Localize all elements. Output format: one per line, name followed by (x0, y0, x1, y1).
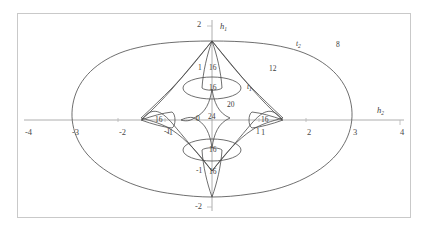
origin-label-0: 0 (196, 115, 200, 123)
region-label-12: 12 (269, 65, 277, 73)
x-axis-name: h2 (377, 106, 384, 115)
x-tick-label-3: 3 (353, 128, 357, 137)
figure-container: h1 h2 2 -2 -4 -3 -2 -1 1 2 3 4 t2 t1 8 1… (0, 0, 428, 240)
corner-label--1-left: -1 (164, 128, 170, 136)
x-tick-label--3: -3 (72, 128, 79, 137)
y-tick-label-2: 2 (197, 20, 201, 29)
region-label-24: 24 (208, 113, 216, 121)
curve-label-t1: t1 (247, 83, 252, 91)
region-label-8: 8 (336, 41, 340, 49)
corner-label--1-bottom: -1 (196, 167, 202, 175)
region-label-16-bottom-spike: 16 (209, 168, 217, 176)
y-tick-label--2: -2 (195, 202, 202, 211)
region-label-20: 20 (227, 101, 235, 109)
y-axis-name: h1 (220, 22, 227, 31)
corner-label-1-upper-left: 1 (198, 64, 202, 72)
region-label-16-upper-ellipse: 16 (209, 84, 217, 92)
region-label-16-left-spike: 16 (155, 116, 163, 124)
x-tick-label--4: -4 (25, 128, 32, 137)
x-tick-label-4: 4 (400, 128, 404, 137)
corner-label-1-right: 1 (256, 128, 260, 136)
x-tick-label-1: 1 (261, 128, 265, 137)
region-label-16-top-spike: 16 (209, 64, 217, 72)
region-label-16-lower-ellipse: 16 (209, 146, 217, 154)
region-label-16-right-spike: 16 (261, 116, 269, 124)
x-tick-label-2: 2 (307, 128, 311, 137)
curve-label-t2: t2 (296, 40, 301, 48)
x-tick-label--2: -2 (119, 128, 126, 137)
